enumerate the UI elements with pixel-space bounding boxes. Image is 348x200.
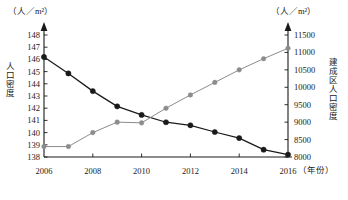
data-point	[237, 135, 242, 140]
data-point	[285, 152, 290, 157]
data-point	[91, 130, 96, 135]
data-point	[41, 54, 46, 59]
data-point	[212, 129, 217, 134]
data-point	[261, 56, 266, 61]
data-point	[164, 106, 169, 111]
data-point	[163, 120, 168, 125]
data-point	[90, 89, 95, 94]
data-point	[237, 68, 242, 73]
series-line	[44, 48, 288, 146]
data-point	[42, 144, 47, 149]
left-y-axis-arrow-icon	[41, 22, 48, 31]
data-point	[66, 71, 71, 76]
data-point	[188, 93, 193, 98]
data-point	[66, 144, 71, 149]
plot-area	[0, 0, 348, 200]
data-point	[115, 104, 120, 109]
data-point	[139, 112, 144, 117]
right-y-axis-arrow-icon	[285, 22, 292, 31]
data-point	[286, 46, 291, 51]
data-point	[261, 147, 266, 152]
data-point	[188, 123, 193, 128]
dual-axis-line-chart: （人／m²） （人／m²） 人口密度 建成区人口密度 1381391401411…	[0, 0, 348, 200]
data-point	[139, 121, 144, 126]
data-point	[213, 80, 218, 85]
series-2-right	[42, 46, 291, 149]
data-point	[115, 120, 120, 125]
